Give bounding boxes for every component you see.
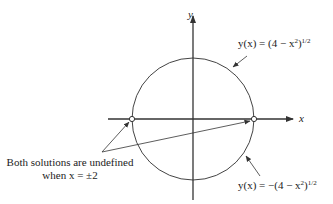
y-axis-label: y	[188, 9, 193, 20]
annotation-line-1: Both solutions are undefined	[6, 156, 134, 169]
annotation-arrow-right	[102, 121, 250, 152]
lower-curve-text: y(x) = −(4 − x	[238, 179, 301, 191]
annotation-text: Both solutions are undefined when x = ±2	[6, 156, 134, 182]
annotation-line-2: when x = ±2	[6, 169, 134, 182]
lower-label-arrow	[246, 156, 260, 176]
upper-curve-exponent: 1/2	[302, 37, 311, 45]
undefined-point-left	[129, 116, 134, 121]
upper-label-arrow	[233, 56, 247, 67]
undefined-point-right	[251, 116, 256, 121]
lower-curve-exponent: 1/2	[308, 179, 317, 187]
upper-curve-text: y(x) = (4 − x	[238, 37, 294, 49]
lower-curve-label: y(x) = −(4 − x2)1/2	[238, 180, 317, 191]
x-axis-label: x	[299, 113, 304, 124]
upper-curve-label: y(x) = (4 − x2)1/2	[238, 38, 311, 49]
